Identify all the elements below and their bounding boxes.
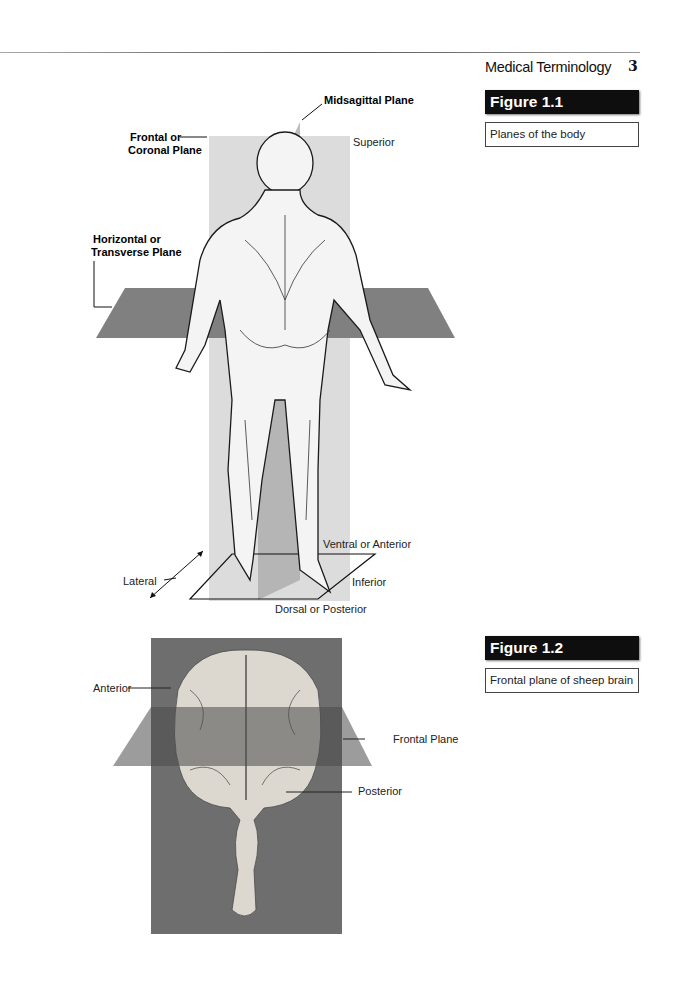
posterior-label: Posterior	[358, 785, 402, 797]
horizontal-plane-label-1: Horizontal or	[93, 233, 161, 245]
dorsal-posterior-label: Dorsal or Posterior	[275, 603, 367, 615]
midsagittal-plane-label: Midsagittal Plane	[324, 94, 414, 106]
frontal-plane-label: Frontal Plane	[393, 733, 458, 745]
planes-of-body-drawing	[0, 0, 684, 620]
inferior-label: Inferior	[352, 576, 386, 588]
figure-1-2-photo	[0, 620, 684, 940]
superior-label: Superior	[353, 136, 395, 148]
frontal-plane-label-1: Frontal or	[130, 131, 181, 143]
frontal-plane-label-2: Coronal Plane	[128, 144, 202, 156]
figure-1-1-illustration	[0, 0, 684, 620]
anterior-label: Anterior	[93, 682, 132, 694]
sheep-brain-drawing	[0, 620, 684, 940]
ventral-anterior-label: Ventral or Anterior	[323, 538, 411, 550]
horizontal-plane-label-2: Transverse Plane	[91, 246, 182, 258]
lateral-label: Lateral	[123, 575, 157, 587]
